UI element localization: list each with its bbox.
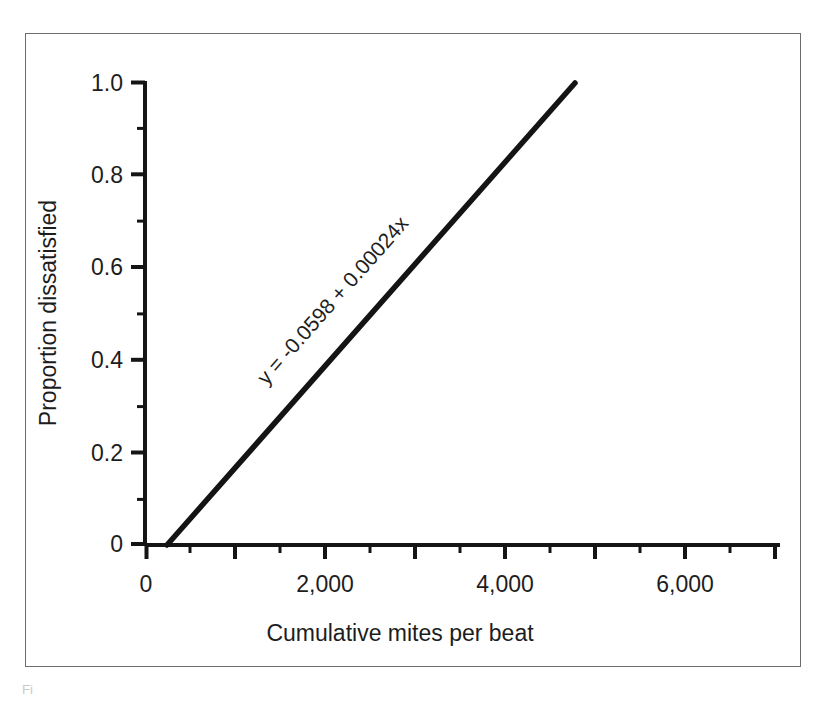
y-tick-label-1.0: 1.0 [91,70,123,96]
data-series-fitted-line [167,83,575,545]
y-tick-label-0.6: 0.6 [91,254,123,280]
x-tick-label-0: 0 [140,571,153,597]
x-axis: 0 2,000 4,000 6,000 Cumulative mites per… [140,545,780,646]
x-tick-label-6000: 6,000 [656,571,714,597]
figure-root: 1.0 0.8 0.6 0.4 0.2 0 Proportion dissati… [0,0,821,702]
caption-fragment: Fi [22,684,52,696]
y-tick-label-0.8: 0.8 [91,162,123,188]
x-tick-label-2000: 2,000 [296,571,354,597]
y-axis-title: Proportion dissatisfied [35,200,61,426]
x-axis-title: Cumulative mites per beat [266,620,534,646]
regression-line [167,83,575,545]
equation-annotation: y = -0.0598 + 0.00024x [252,211,413,388]
chart-canvas: 1.0 0.8 0.6 0.4 0.2 0 Proportion dissati… [0,0,821,702]
y-tick-label-0.4: 0.4 [91,347,123,373]
x-tick-label-4000: 4,000 [476,571,534,597]
y-tick-label-0: 0 [110,531,123,557]
y-tick-label-0.2: 0.2 [91,440,123,466]
y-axis: 1.0 0.8 0.6 0.4 0.2 0 Proportion dissati… [35,70,145,557]
